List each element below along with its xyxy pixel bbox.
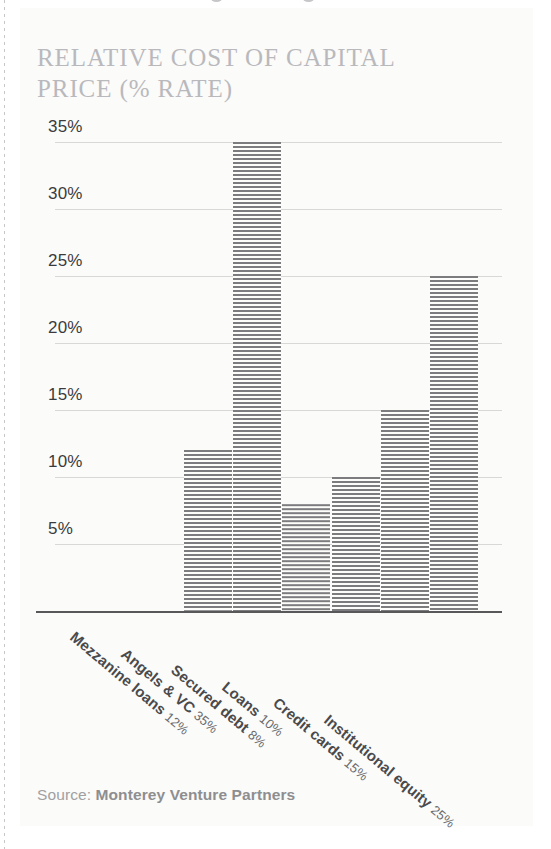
x-axis-line [36, 611, 502, 613]
bar [233, 142, 281, 611]
y-axis-tick-label: 5% [48, 519, 73, 539]
source-label: Source: [37, 786, 96, 803]
y-axis-tick-label: 30% [48, 184, 83, 204]
source-note: Source: Monterey Venture Partners [37, 786, 295, 804]
chart-page: RELATIVE COST OF CAPITAL PRICE (% RATE) … [0, 0, 551, 849]
source-organization: Monterey Venture Partners [96, 786, 296, 803]
bar [332, 477, 380, 611]
bar [184, 450, 232, 611]
y-axis-tick-label: 25% [48, 251, 83, 271]
bar [430, 276, 478, 611]
y-axis-tick-label: 20% [48, 318, 83, 338]
x-axis-category-label: Institutional equity 25% [321, 711, 459, 831]
y-axis-tick-label: 10% [48, 452, 83, 472]
bar-chart-plot: 35%30%25%20%15%10%5%Mezzanine loans 12%A… [0, 0, 551, 849]
y-axis-tick-label: 15% [48, 385, 83, 405]
bar [282, 504, 330, 611]
bar [381, 410, 429, 611]
y-axis-tick-label: 35% [48, 117, 83, 137]
